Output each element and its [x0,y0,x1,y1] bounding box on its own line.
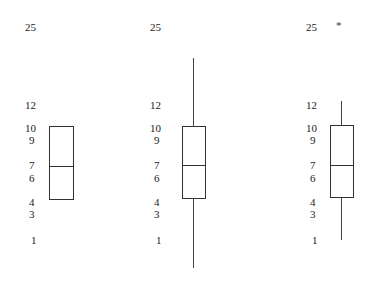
axis-label-3: 3 [310,208,316,220]
axis-label-9: 9 [310,134,316,146]
axis-label-6: 6 [310,172,316,184]
box-iqr [330,125,354,198]
axis-label-25: 25 [306,21,317,33]
axis-label-10: 10 [306,122,317,134]
lower-whisker [341,198,342,240]
median-line [330,165,354,166]
upper-whisker [341,101,342,125]
axis-label-1: 1 [312,234,318,246]
axis-label-12: 12 [306,99,317,111]
boxplot-panel-3: 25 12 10 9 7 6 4 3 1 * [0,0,377,296]
axis-label-4: 4 [310,196,316,208]
axis-label-7: 7 [310,159,316,171]
outlier-marker: * [336,19,342,31]
